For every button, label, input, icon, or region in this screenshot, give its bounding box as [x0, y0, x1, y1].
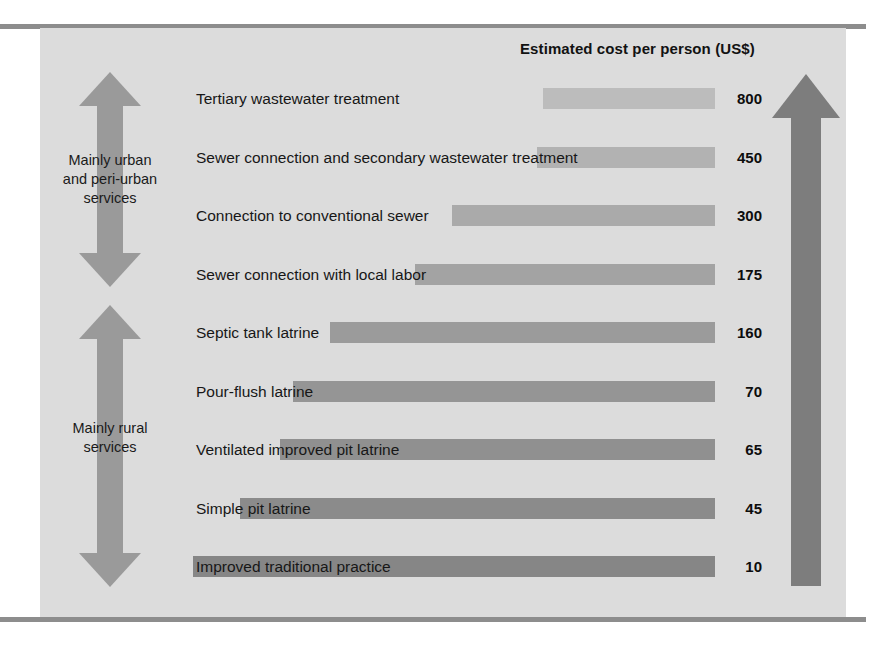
bar-row: Pour-flush latrine70 — [0, 363, 890, 421]
bar-category-label: Simple pit latrine — [196, 498, 311, 519]
bar-category-label: Ventilated improved pit latrine — [196, 439, 399, 460]
group-label-line3: services — [62, 189, 158, 208]
group-label-line1: Mainly rural — [62, 419, 158, 438]
bar-category-label: Connection to conventional sewer — [196, 205, 429, 226]
bar-row: Simple pit latrine45 — [0, 480, 890, 538]
bar — [293, 381, 715, 402]
bar — [415, 264, 715, 285]
bar-value-label: 160 — [700, 322, 762, 343]
group-label-line2: and peri-urban — [62, 170, 158, 189]
bar-row: Sewer connection with local labor175 — [0, 246, 890, 304]
bar-value-label: 300 — [700, 205, 762, 226]
bar-category-label: Septic tank latrine — [196, 322, 319, 343]
bar-value-label: 45 — [700, 498, 762, 519]
bar-value-label: 800 — [700, 88, 762, 109]
bar — [543, 88, 715, 109]
bar-category-label: Sewer connection with local labor — [196, 264, 426, 285]
group-label-line2: services — [62, 438, 158, 457]
bar-category-label: Improved traditional practice — [196, 556, 391, 577]
bar-value-label: 65 — [700, 439, 762, 460]
bar-category-label: Sewer connection and secondary wastewate… — [196, 147, 578, 168]
bar-category-label: Tertiary wastewater treatment — [196, 88, 399, 109]
bar — [452, 205, 715, 226]
bar-value-label: 70 — [700, 381, 762, 402]
bar-rows: Tertiary wastewater treatment800Sewer co… — [0, 0, 890, 651]
bar-value-label: 450 — [700, 147, 762, 168]
bar-value-label: 175 — [700, 264, 762, 285]
bar — [240, 498, 715, 519]
bar-category-label: Pour-flush latrine — [196, 381, 313, 402]
bar — [330, 322, 715, 343]
bar-value-label: 10 — [700, 556, 762, 577]
group-label-line1: Mainly urban — [62, 151, 158, 170]
bar-row: Improved traditional practice10 — [0, 538, 890, 596]
bar-row: Septic tank latrine160 — [0, 304, 890, 362]
bar-row: Tertiary wastewater treatment800 — [0, 70, 890, 128]
